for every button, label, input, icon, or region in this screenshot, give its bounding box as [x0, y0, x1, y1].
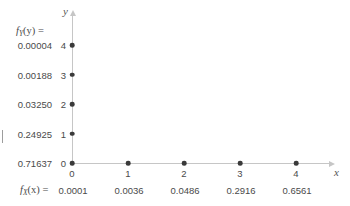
- y-axis-arrow-icon: [70, 10, 76, 16]
- data-point: [70, 131, 75, 136]
- data-point: [182, 161, 187, 166]
- fy-function-label: fY(y) =: [16, 25, 44, 38]
- x-tick-label: 2: [172, 168, 196, 179]
- fy-value: 0.00004: [0, 40, 52, 51]
- fx-value: 0.2916: [218, 185, 264, 196]
- fx-value: 0.0486: [162, 185, 208, 196]
- x-tick-label: 0: [60, 168, 84, 179]
- data-point: [70, 161, 75, 166]
- fx-argument: (x) =: [28, 184, 49, 195]
- fx-value: 0.6561: [274, 185, 320, 196]
- fy-value: 0.71637: [0, 158, 52, 169]
- data-point: [70, 102, 75, 107]
- y-tick-label: 2: [54, 99, 66, 110]
- y-axis-line: [72, 16, 73, 165]
- fx-value: 0.0001: [50, 185, 96, 196]
- y-axis-label: y: [63, 5, 68, 17]
- data-point: [294, 161, 299, 166]
- data-point: [126, 161, 131, 166]
- x-axis-label: x: [334, 166, 339, 178]
- fx-value: 0.0036: [106, 185, 152, 196]
- x-tick-label: 1: [116, 168, 140, 179]
- y-tick-label: 3: [54, 69, 66, 80]
- y-tick-label: 1: [54, 128, 66, 139]
- data-point: [238, 161, 243, 166]
- x-axis-line: [72, 163, 331, 164]
- fx-function-label: fX(x) =: [20, 184, 48, 197]
- x-tick-label: 3: [228, 168, 252, 179]
- y-tick-label: 0: [54, 158, 66, 169]
- fy-value: 0.00188: [0, 69, 52, 80]
- fy-argument: (y) =: [23, 25, 44, 36]
- data-point: [70, 43, 75, 48]
- data-point: [70, 72, 75, 77]
- x-tick-label: 4: [284, 168, 308, 179]
- fy-value: 0.03250: [0, 99, 52, 110]
- fy-value: 0.24925: [0, 128, 52, 139]
- scatter-plot-figure: y x fY(y) = fX(x) = 4 3 2 1 0 0.00004 0.…: [0, 0, 350, 206]
- y-tick-label: 4: [54, 40, 66, 51]
